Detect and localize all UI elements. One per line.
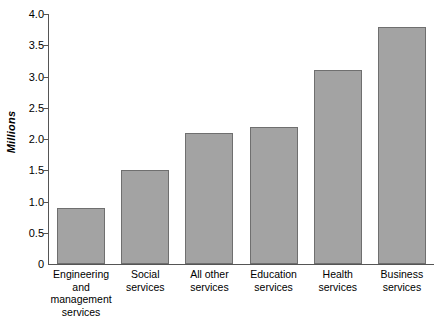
y-axis-tick-label: 1.5 xyxy=(18,165,44,176)
y-axis-tick-mark xyxy=(43,14,49,15)
y-axis-tick-mark xyxy=(43,77,49,78)
bar xyxy=(314,70,362,264)
y-axis-tick-label: 3.5 xyxy=(18,40,44,51)
bar xyxy=(250,127,298,265)
y-axis-tick-mark xyxy=(43,108,49,109)
y-axis-tick-label: 0.5 xyxy=(18,227,44,238)
y-axis-tick-mark xyxy=(43,170,49,171)
x-axis-category-label: Business services xyxy=(364,268,438,293)
y-axis-tick-mark xyxy=(43,233,49,234)
y-axis-tick-label: 1.0 xyxy=(18,196,44,207)
y-axis-tick-label: 0 xyxy=(18,259,44,270)
bar xyxy=(378,27,426,265)
y-axis-tick-mark xyxy=(43,45,49,46)
bar xyxy=(57,208,105,264)
x-axis-category-labels: Engineering and management servicesSocia… xyxy=(49,268,434,317)
bar xyxy=(185,133,233,264)
y-axis-tick-label: 2.5 xyxy=(18,102,44,113)
x-axis-line xyxy=(48,264,434,265)
y-axis-tick-label: 2.0 xyxy=(18,134,44,145)
plot-area xyxy=(49,14,434,264)
y-axis-tick-mark xyxy=(43,202,49,203)
bar xyxy=(121,170,169,264)
y-axis-title-text: Millions xyxy=(5,111,17,154)
y-axis-tick-label: 4.0 xyxy=(18,9,44,20)
y-axis-tick-mark xyxy=(43,139,49,140)
bar-chart: Millions 00.51.01.52.02.53.03.54.0 Engin… xyxy=(0,0,438,317)
y-axis-tick-labels: 00.51.01.52.02.53.03.54.0 xyxy=(18,0,44,280)
y-axis-tick-label: 3.0 xyxy=(18,71,44,82)
